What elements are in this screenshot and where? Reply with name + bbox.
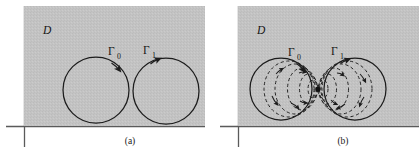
panel-a: D Γ 0 Γ 1 [6, 6, 205, 147]
caption-panel-a: (a) [100, 136, 160, 146]
domain-label-a: D [42, 24, 52, 36]
label-gamma-0-b-base: Γ [288, 46, 295, 58]
pinch-point-b [315, 86, 320, 91]
label-gamma-1-a-base: Γ [143, 44, 150, 56]
label-gamma-0-a-sub: 0 [117, 52, 121, 61]
caption-panel-b: (b) [313, 136, 373, 146]
label-gamma-0-b-sub: 0 [297, 53, 301, 62]
label-gamma-1-a-sub: 1 [152, 51, 156, 60]
panel-b: D [220, 6, 419, 147]
figure-container: D Γ 0 Γ 1 D [0, 0, 420, 163]
label-gamma-1-b-sub: 1 [340, 52, 344, 61]
label-gamma-0-a-base: Γ [108, 45, 115, 57]
label-gamma-1-b-base: Γ [331, 45, 338, 57]
domain-label-b: D [256, 24, 266, 36]
